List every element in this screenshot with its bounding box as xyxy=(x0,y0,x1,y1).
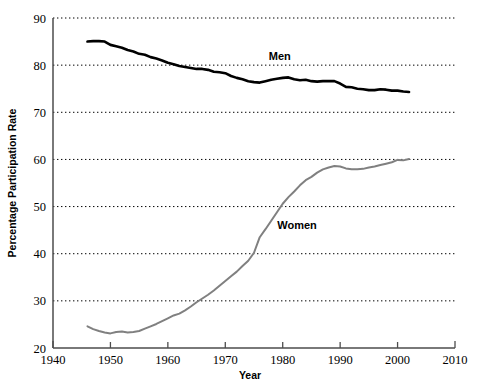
axis-lines xyxy=(53,18,455,348)
x-axis-title: Year xyxy=(239,369,261,381)
series-label-men: Men xyxy=(269,50,291,62)
x-axis-ticks xyxy=(53,341,455,348)
x-tick-label-1960: 1960 xyxy=(155,353,180,367)
data-series xyxy=(87,41,409,333)
series-line-women xyxy=(87,159,409,333)
x-tick-label-2000: 2000 xyxy=(385,353,410,367)
x-tick-label-2010: 2010 xyxy=(443,353,468,367)
y-axis-title: Percentage Participation Rate xyxy=(6,108,18,257)
x-tick-label-1990: 1990 xyxy=(328,353,353,367)
x-tick-label-1970: 1970 xyxy=(213,353,238,367)
y-tick-label-40: 40 xyxy=(34,247,47,261)
x-tick-labels: 19401950196019701980199020002010 xyxy=(41,353,468,367)
y-tick-label-50: 50 xyxy=(34,200,47,214)
series-annotations: MenWomen xyxy=(269,50,317,230)
x-tick-label-1950: 1950 xyxy=(98,353,123,367)
series-label-women: Women xyxy=(277,219,317,231)
y-tick-label-70: 70 xyxy=(34,106,47,120)
y-tick-label-90: 90 xyxy=(34,12,47,26)
y-tick-label-60: 60 xyxy=(34,153,47,167)
y-tick-label-80: 80 xyxy=(34,59,47,73)
y-tick-label-20: 20 xyxy=(34,342,47,356)
x-tick-label-1980: 1980 xyxy=(270,353,295,367)
axis-titles: Year Percentage Participation Rate xyxy=(6,108,261,381)
gridlines xyxy=(53,18,455,301)
chart-container: 19401950196019701980199020002010 2030405… xyxy=(0,0,479,391)
y-tick-labels: 2030405060708090 xyxy=(34,12,47,356)
line-chart: 19401950196019701980199020002010 2030405… xyxy=(0,0,479,391)
y-tick-label-30: 30 xyxy=(34,294,47,308)
series-line-men xyxy=(87,41,409,92)
